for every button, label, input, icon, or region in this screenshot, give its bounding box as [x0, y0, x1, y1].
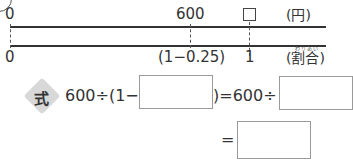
equation-part-1: 600÷(1−	[65, 88, 139, 104]
equation-part-2: )=600÷	[213, 88, 277, 104]
zero-dashed-marker	[10, 24, 11, 48]
equals-sign: =	[221, 132, 234, 148]
top-axis-zero-label: 0	[5, 7, 15, 22]
bottom-axis-zero-label: 0	[5, 50, 15, 65]
yen-unit-label: (円)	[286, 8, 311, 23]
answer-box-1[interactable]	[139, 75, 213, 109]
answer-box-3[interactable]	[237, 121, 311, 159]
ratio-number-line	[10, 45, 326, 47]
amount-number-line	[10, 26, 326, 28]
formula-badge-label: 式	[34, 87, 49, 108]
600-dashed-marker	[190, 24, 191, 48]
ratio-one-label: 1	[245, 50, 255, 65]
answer-box-2[interactable]	[279, 76, 353, 110]
unknown-value-box	[243, 8, 256, 21]
top-axis-600-label: 600	[176, 7, 205, 22]
ratio-expression-label: (1−0.25)	[158, 50, 225, 65]
ratio-unit-label: (割合)	[286, 51, 325, 66]
